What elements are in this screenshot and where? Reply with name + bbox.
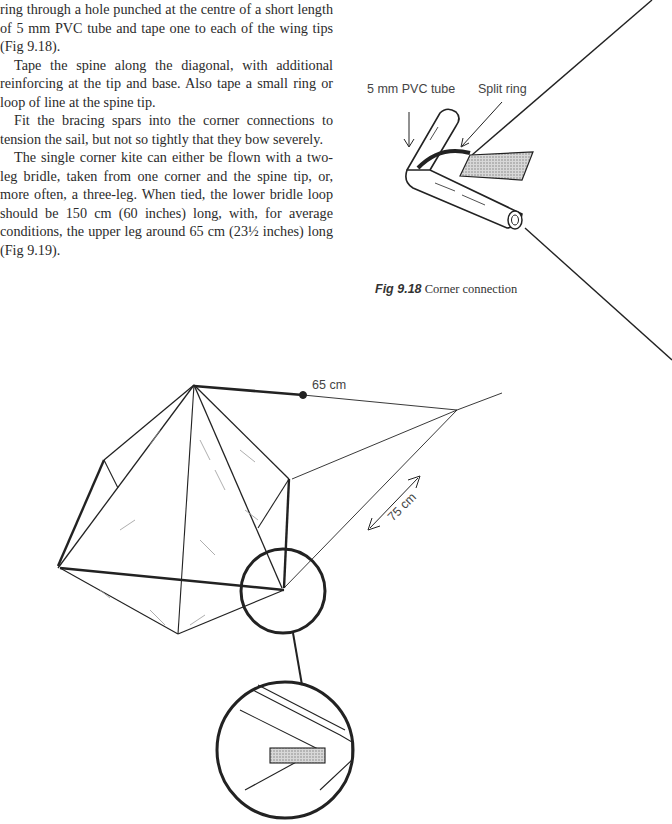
corner-connection-drawing bbox=[404, 0, 672, 360]
label-pvc-tube: 5 mm PVC tube bbox=[367, 82, 455, 96]
figure-caption: Fig 9.18 Corner connection bbox=[375, 282, 517, 297]
figure-caption-text: Corner connection bbox=[425, 282, 518, 296]
kite-illustrations bbox=[0, 0, 672, 824]
label-split-ring: Split ring bbox=[478, 82, 527, 96]
label-upper-leg: 65 cm bbox=[312, 378, 346, 392]
figure-number: Fig 9.18 bbox=[375, 282, 422, 296]
kite-drawing bbox=[58, 385, 502, 818]
